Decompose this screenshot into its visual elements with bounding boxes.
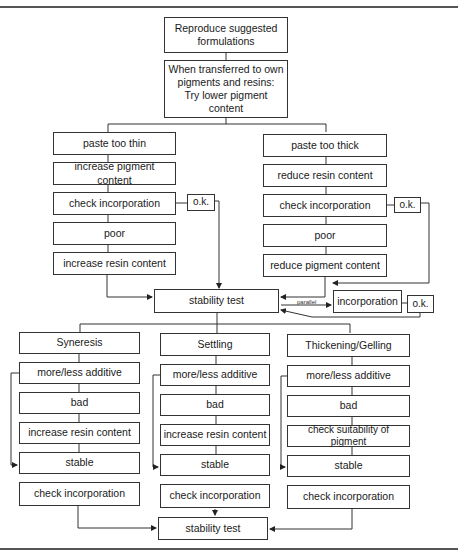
right-to-stability-arrow (281, 277, 325, 297)
connector-split-left (108, 118, 226, 132)
right-ok-box: o.k. (394, 197, 421, 213)
right-step-4: reduce pigment content (263, 254, 387, 277)
settling-step-3: stable (160, 454, 270, 476)
thickening-step-2: check suitability of pigment (287, 425, 410, 447)
stability-test-box: stability test (154, 289, 279, 313)
syneresis-step-4: check incorporation (19, 482, 140, 506)
thickening-step-4: check incorporation (287, 485, 410, 509)
thickening-loop-arrow (281, 376, 287, 467)
thickening-step-0: more/less additive (287, 365, 410, 387)
incorporation-box: incorporation (333, 290, 402, 313)
syneresis-step-3: stable (19, 452, 140, 474)
syneresis-step-1: bad (19, 392, 140, 414)
incorporation-ok-box: o.k. (407, 295, 434, 313)
settling-step-2: increase resin content (160, 424, 270, 446)
syneresis-title: Syneresis (19, 332, 140, 354)
left-step-3: poor (53, 222, 176, 245)
left-to-stability-arrow (107, 275, 152, 297)
right-step-1: reduce resin content (263, 164, 387, 187)
right-step-2: check incorporation (263, 194, 387, 217)
connector-split-right (226, 124, 326, 132)
settling-step-4: check incorporation (160, 484, 270, 508)
settling-step-0: more/less additive (160, 364, 270, 386)
right-step-0: paste too thick (263, 134, 387, 157)
left-step-1: increase pigment content (53, 162, 176, 185)
final-stability-test-box: stability test (158, 517, 268, 540)
syneresis-loop-arrow (11, 373, 19, 465)
syneresis-final-arrow (78, 506, 156, 528)
left-step-2: check incorporation (53, 192, 176, 215)
reproduce-formulations-box: Reproduce suggested formulations (164, 17, 288, 53)
thickening-step-3: stable (287, 455, 410, 477)
syneresis-step-0: more/less additive (19, 362, 140, 384)
syneresis-step-2: increase resin content (19, 422, 140, 444)
left-step-4: increase resin content (53, 252, 176, 275)
settling-title: Settling (160, 333, 270, 356)
settling-loop-arrow (153, 375, 160, 467)
thickening-title: Thickening/Gelling (287, 334, 410, 357)
settling-step-1: bad (160, 394, 270, 416)
thickening-final-arrow (270, 509, 352, 529)
transfer-pigments-box: When transferred to own pigments and res… (164, 60, 288, 118)
left-step-0: paste too thin (53, 132, 176, 155)
left-ok-box: o.k. (187, 194, 215, 211)
thickening-step-1: bad (287, 395, 410, 417)
left-ok-arrow (215, 201, 219, 288)
right-step-3: poor (263, 224, 387, 247)
parallel-label: parallel (297, 299, 316, 305)
